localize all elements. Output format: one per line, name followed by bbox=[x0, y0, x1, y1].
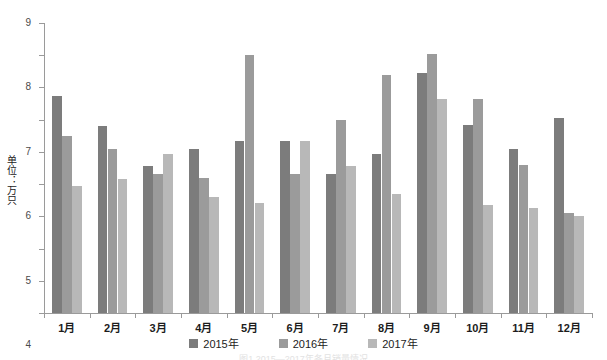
y-tick-mark: 2 bbox=[39, 249, 44, 250]
x-tick-mark bbox=[501, 313, 502, 318]
bar bbox=[483, 205, 493, 313]
bar-group bbox=[280, 23, 310, 313]
bar bbox=[382, 75, 392, 313]
bar bbox=[98, 126, 108, 313]
x-tick-label: 3月 bbox=[150, 319, 167, 335]
bar bbox=[52, 96, 62, 314]
y-tick-label: 8 bbox=[25, 82, 31, 92]
y-tick-mark: 4 bbox=[39, 184, 44, 185]
bar bbox=[554, 118, 564, 313]
legend-label: 2016年 bbox=[293, 335, 328, 351]
bar-group bbox=[417, 23, 447, 313]
bar bbox=[372, 154, 382, 314]
x-tick-mark bbox=[546, 313, 547, 318]
legend-swatch-icon bbox=[279, 339, 288, 348]
x-tick-mark bbox=[592, 313, 593, 318]
y-tick-label: 7 bbox=[25, 147, 31, 157]
x-tick-mark bbox=[409, 313, 410, 318]
x-tick-mark bbox=[135, 313, 136, 318]
x-tick-mark bbox=[181, 313, 182, 318]
bar bbox=[72, 186, 82, 313]
y-axis-title: 单位：万只 bbox=[2, 120, 20, 240]
bar-group bbox=[189, 23, 219, 313]
legend-label: 2017年 bbox=[382, 335, 417, 351]
bar bbox=[189, 149, 199, 313]
bar-group bbox=[326, 23, 356, 313]
legend-item[interactable]: 2016年 bbox=[279, 335, 328, 351]
x-tick-label: 9月 bbox=[424, 319, 441, 335]
bar bbox=[473, 99, 483, 313]
legend-label: 2015年 bbox=[203, 335, 238, 351]
x-tick-mark bbox=[455, 313, 456, 318]
bar bbox=[62, 136, 72, 313]
chart-legend: 2015年2016年2017年 bbox=[0, 335, 607, 351]
bar-group bbox=[235, 23, 265, 313]
bar bbox=[290, 174, 300, 313]
bar bbox=[437, 99, 447, 313]
x-tick-label: 10月 bbox=[466, 319, 489, 335]
x-tick-label: 7月 bbox=[332, 319, 349, 335]
y-axis-line bbox=[44, 23, 45, 313]
bar bbox=[153, 174, 163, 313]
bar bbox=[255, 203, 265, 313]
x-tick-label: 8月 bbox=[378, 319, 395, 335]
y-tick-mark: 3 bbox=[39, 216, 44, 217]
figure-caption: 图1 2015—2017年各月销量情况 bbox=[0, 352, 607, 360]
x-tick-label: 11月 bbox=[512, 319, 535, 335]
x-tick-mark bbox=[90, 313, 91, 318]
plot-area: 0123456789 1月2月3月4月5月6月7月8月9月10月11月12月 bbox=[44, 23, 592, 313]
legend-item[interactable]: 2015年 bbox=[189, 335, 238, 351]
y-tick-mark: 6 bbox=[39, 120, 44, 121]
bar bbox=[280, 141, 290, 313]
bar bbox=[163, 154, 173, 314]
x-tick-mark bbox=[272, 313, 273, 318]
bar bbox=[300, 141, 310, 313]
bar-group bbox=[52, 23, 82, 313]
y-tick-label: 6 bbox=[25, 211, 31, 221]
x-tick-label: 5月 bbox=[241, 319, 258, 335]
y-tick-mark: 8 bbox=[39, 55, 44, 56]
bar bbox=[509, 149, 519, 313]
bar-group bbox=[98, 23, 128, 313]
bar bbox=[417, 73, 427, 313]
bar bbox=[574, 216, 584, 313]
bar bbox=[427, 54, 437, 313]
bar bbox=[336, 120, 346, 313]
bar-group bbox=[509, 23, 539, 313]
bar bbox=[529, 208, 539, 313]
bar bbox=[245, 55, 255, 313]
x-tick-mark bbox=[364, 313, 365, 318]
y-tick-mark: 9 bbox=[39, 23, 44, 24]
y-tick-label: 9 bbox=[25, 18, 31, 28]
y-tick-mark: 7 bbox=[39, 87, 44, 88]
x-tick-label: 1月 bbox=[58, 319, 75, 335]
bar bbox=[519, 165, 529, 313]
bar-group bbox=[143, 23, 173, 313]
bar bbox=[564, 213, 574, 313]
legend-swatch-icon bbox=[189, 339, 198, 348]
bar-group bbox=[463, 23, 493, 313]
y-tick-mark: 1 bbox=[39, 281, 44, 282]
bar bbox=[392, 194, 402, 313]
bar bbox=[118, 179, 128, 313]
bar bbox=[235, 141, 245, 313]
y-tick-mark: 5 bbox=[39, 152, 44, 153]
x-tick-label: 2月 bbox=[104, 319, 121, 335]
bar-group bbox=[554, 23, 584, 313]
bar bbox=[108, 149, 118, 313]
bar bbox=[143, 166, 153, 313]
x-tick-label: 6月 bbox=[287, 319, 304, 335]
x-tick-label: 12月 bbox=[558, 319, 581, 335]
legend-swatch-icon bbox=[368, 339, 377, 348]
bar-group bbox=[372, 23, 402, 313]
bar bbox=[346, 166, 356, 313]
chart-page: 单位：万只 0123456789 1月2月3月4月5月6月7月8月9月10月11… bbox=[0, 0, 607, 360]
bar bbox=[209, 197, 219, 313]
bar bbox=[326, 174, 336, 313]
bar bbox=[463, 125, 473, 314]
x-tick-label: 4月 bbox=[195, 319, 212, 335]
legend-item[interactable]: 2017年 bbox=[368, 335, 417, 351]
y-tick-label: 5 bbox=[25, 276, 31, 286]
x-tick-mark bbox=[318, 313, 319, 318]
bar bbox=[199, 178, 209, 313]
